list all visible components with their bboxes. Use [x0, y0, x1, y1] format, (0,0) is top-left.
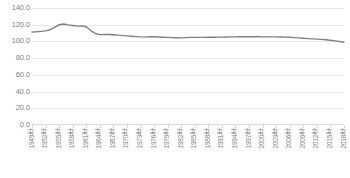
- x-axis-tick-label: 1964年: [96, 128, 103, 148]
- x-axis-tick-label: 1958年: [69, 128, 76, 148]
- x-axis-tick-label: 2000年: [259, 128, 266, 148]
- x-axis-tick-label: 1994年: [232, 128, 239, 148]
- x-axis-tick-label: 2009年: [300, 128, 307, 148]
- y-axis-tick-label: 60.0: [0, 71, 30, 79]
- y-axis-tick-label: 0.0: [0, 121, 30, 129]
- x-axis-tick-label: 1976年: [151, 128, 158, 148]
- series-line: [32, 8, 344, 125]
- x-axis-tick-label: 1961年: [83, 128, 90, 148]
- x-axis-tick-label: 1988年: [205, 128, 212, 148]
- line-chart: 0.020.040.060.080.0100.0120.0140.0 1949年…: [0, 0, 350, 178]
- y-axis-tick-label: 140.0: [0, 4, 30, 12]
- x-axis-tick-label: 1982年: [178, 128, 185, 148]
- x-axis-tick-label: 1997年: [246, 128, 253, 148]
- x-axis-tick-label: 2003年: [273, 128, 280, 148]
- y-axis-tick-label: 20.0: [0, 105, 30, 113]
- x-axis-tick-label: 1991年: [218, 128, 225, 148]
- x-axis-tick-label: 2012年: [313, 128, 320, 148]
- x-axis-labels: 1949年1952年1955年1958年1961年1964年1967年1970年…: [32, 128, 344, 178]
- x-axis-tick-label: 2018年: [341, 128, 348, 148]
- x-axis-tick-label: 1955年: [56, 128, 63, 148]
- x-axis-tick-label: 2015年: [327, 128, 334, 148]
- x-axis-tick-label: 1970年: [123, 128, 130, 148]
- y-axis-tick-label: 80.0: [0, 54, 30, 62]
- plot-area: [32, 8, 344, 125]
- y-axis-tick-label: 120.0: [0, 21, 30, 29]
- y-axis-tick-label: 100.0: [0, 38, 30, 46]
- x-axis-tick-label: 2006年: [286, 128, 293, 148]
- x-axis: 1949年1952年1955年1958年1961年1964年1967年1970年…: [32, 125, 344, 178]
- y-axis-tick-label: 40.0: [0, 88, 30, 96]
- x-axis-tick-label: 1967年: [110, 128, 117, 148]
- x-axis-tick-label: 1985年: [191, 128, 198, 148]
- x-axis-tick-label: 1979年: [164, 128, 171, 148]
- x-axis-tick-label: 1949年: [29, 128, 36, 148]
- y-axis: 0.020.040.060.080.0100.0120.0140.0: [0, 0, 30, 125]
- x-axis-tick-label: 1952年: [42, 128, 49, 148]
- x-axis-tick-label: 1973年: [137, 128, 144, 148]
